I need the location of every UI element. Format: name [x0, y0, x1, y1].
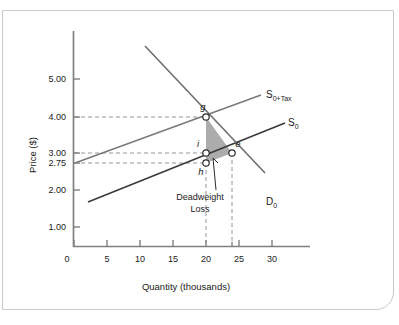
curve-label-s0: S0 — [288, 117, 299, 130]
curve-label-d0: D0 — [266, 196, 277, 209]
deadweight-loss-label-line1: Deadweight — [176, 192, 224, 202]
curve-label-s0-plus-tax: S0+Tax — [266, 89, 292, 102]
x-tick-label-15: 15 — [168, 254, 178, 264]
point-label-g: g — [200, 101, 206, 112]
curve-label-d0-sub: 0 — [273, 202, 277, 209]
y-tick-label-275: 2.75 — [48, 158, 66, 168]
deadweight-loss-chart: 5.00 4.00 3.00 2.75 2.00 1.00 0 5 10 15 … — [0, 0, 399, 325]
y-tick-label-400: 4.00 — [48, 112, 66, 122]
x-tick-label-20: 20 — [201, 254, 211, 264]
curve-label-d0-main: D — [266, 196, 273, 207]
figure-container: 5.00 4.00 3.00 2.75 2.00 1.00 0 5 10 15 … — [0, 0, 399, 325]
leader-segment-vertical — [213, 158, 216, 190]
x-tick-label-30: 30 — [267, 254, 277, 264]
x-tick-label-10: 10 — [135, 254, 145, 264]
y-tick-label-200: 2.00 — [48, 185, 66, 195]
y-axis-title: Price ($) — [27, 137, 38, 173]
x-axis-title: Quantity (thousands) — [142, 281, 230, 292]
x-tick-label-25: 25 — [234, 254, 244, 264]
point-label-e: e — [235, 138, 240, 149]
point-label-h: h — [198, 166, 203, 177]
y-tick-label-500: 5.00 — [48, 74, 66, 84]
point-marker-e — [229, 150, 235, 156]
curve-label-s0-plus-tax-sub: 0+Tax — [273, 95, 292, 102]
curve-label-s0-sub: 0 — [295, 123, 299, 130]
y-tick-label-300: 3.00 — [48, 148, 66, 158]
x-tick-label-5: 5 — [104, 254, 109, 264]
y-tick-label-100: 1.00 — [48, 222, 66, 232]
point-marker-h — [203, 160, 209, 166]
x-tick-label-0: 0 — [64, 254, 69, 264]
point-marker-g — [203, 114, 209, 120]
deadweight-loss-leader-line — [213, 158, 218, 190]
point-marker-i — [203, 150, 209, 156]
point-label-i: i — [197, 138, 200, 149]
deadweight-loss-label-line2: Loss — [190, 204, 210, 214]
